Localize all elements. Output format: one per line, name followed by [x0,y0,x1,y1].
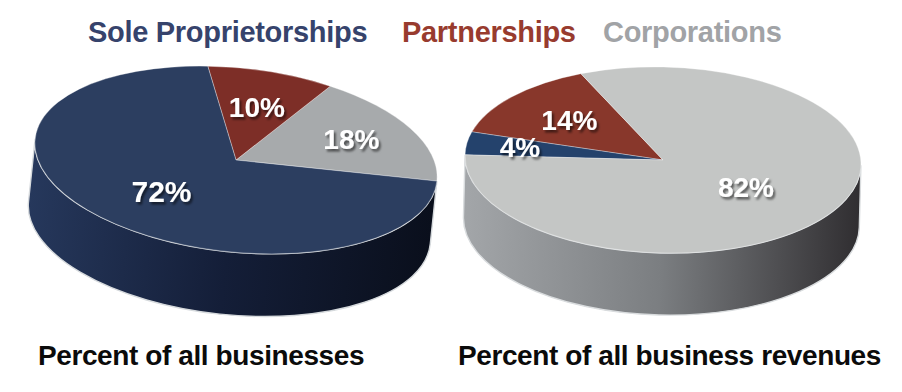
pie-slice-percentage-label: 14% [541,105,597,136]
pie-0: 18%10%72% [19,47,447,335]
pie-charts-figure: Sole Proprietorships Partnerships Corpor… [0,0,902,392]
pie-slice-percentage-label: 4% [500,132,541,163]
pie-1: 14%4%82% [461,62,863,320]
pie-charts-canvas: 18%10%72%14%4%82% [0,0,902,392]
pie-slice-percentage-label: 18% [323,124,379,155]
caption-percent-of-all-businesses: Percent of all businesses [38,340,364,372]
caption-percent-of-all-business-revenues: Percent of all business revenues [458,340,881,372]
pie-slice-percentage-label: 10% [229,92,285,123]
pie-slice-percentage-label: 82% [718,172,774,203]
pie-slice-percentage-label: 72% [131,175,191,208]
